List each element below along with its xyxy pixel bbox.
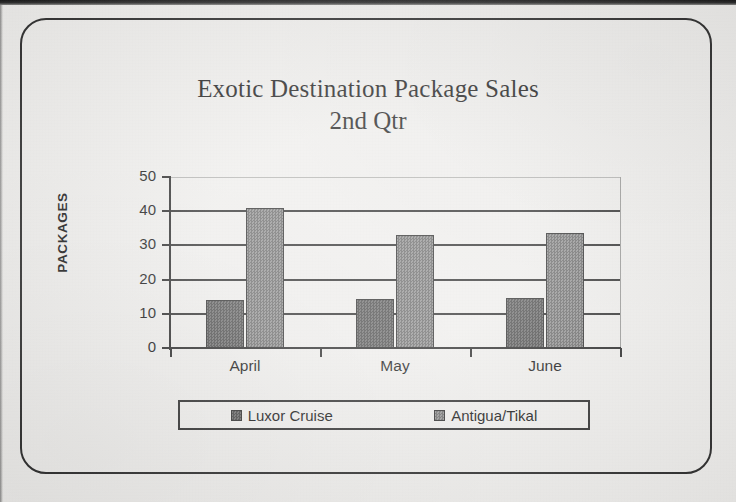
chart-subtitle: 2nd Qtr <box>118 106 618 136</box>
chart-legend: Luxor CruiseAntigua/Tikal <box>178 400 590 430</box>
y-axis-line <box>169 176 171 350</box>
x-tick-label-june: June <box>470 357 620 375</box>
y-tick-label: 20 <box>108 270 156 287</box>
y-tick-mark <box>162 210 171 212</box>
y-tick-label: 30 <box>108 235 156 252</box>
bar-may-luxor-cruise <box>356 299 394 348</box>
y-tick-mark <box>162 244 171 246</box>
y-tick-mark <box>162 313 171 315</box>
y-tick-mark <box>162 279 171 281</box>
bar-chart: Exotic Destination Package Sales 2nd Qtr… <box>0 0 736 502</box>
scan-top-edge-artifact <box>0 0 736 5</box>
plot-top-border <box>170 177 620 178</box>
y-axis-label: PACKAGES <box>55 168 70 298</box>
plot-area <box>170 177 620 348</box>
chart-title: Exotic Destination Package Sales <box>118 74 618 104</box>
x-tick-mark <box>470 348 472 357</box>
plot-right-border <box>620 177 621 348</box>
legend-item-luxor-cruise: Luxor Cruise <box>231 407 333 424</box>
legend-label: Antigua/Tikal <box>451 407 537 424</box>
x-tick-mark <box>620 348 622 357</box>
x-tick-label-may: May <box>320 357 470 375</box>
gridline <box>170 210 620 212</box>
y-tick-label: 50 <box>108 167 156 184</box>
scanned-slide-page: Exotic Destination Package Sales 2nd Qtr… <box>0 0 736 502</box>
scan-left-edge-artifact <box>0 0 3 502</box>
x-tick-mark <box>170 348 172 357</box>
bar-april-antigua-tikal <box>246 208 284 348</box>
legend-label: Luxor Cruise <box>248 407 333 424</box>
bar-may-antigua-tikal <box>396 235 434 348</box>
bar-june-antigua-tikal <box>546 233 584 348</box>
legend-item-antigua-tikal: Antigua/Tikal <box>434 407 537 424</box>
x-axis-line <box>170 347 621 349</box>
x-tick-mark <box>320 348 322 357</box>
y-tick-mark <box>162 176 171 178</box>
y-tick-label: 10 <box>108 304 156 321</box>
bar-april-luxor-cruise <box>206 300 244 348</box>
bar-june-luxor-cruise <box>506 298 544 348</box>
x-tick-label-april: April <box>170 357 320 375</box>
y-tick-label: 0 <box>108 338 156 355</box>
legend-swatch-icon <box>434 410 445 421</box>
y-tick-label: 40 <box>108 201 156 218</box>
legend-swatch-icon <box>231 410 242 421</box>
